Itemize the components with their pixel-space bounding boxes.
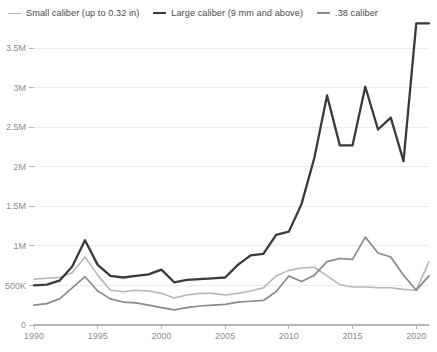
x-axis-tick-label: 2000 [151, 331, 171, 341]
plot-area: 0500K1M1.5M2M2.5M3M3.5M 1990199520002005… [0, 0, 437, 352]
y-axis-tick-label: 1M [13, 241, 26, 251]
x-axis-tick-labels: 1990199520002005201020152020 [24, 325, 426, 341]
chart-container: Small caliber (up to 0.32 in) Large cali… [0, 0, 437, 352]
x-axis-tick-label: 1995 [88, 331, 108, 341]
y-axis-tick-label: 0 [21, 320, 26, 330]
x-axis-tick-label: 1990 [24, 331, 44, 341]
series-line-small-caliber-up-to-0-32-in[interactable] [34, 257, 429, 298]
series-line-38-caliber[interactable] [34, 237, 429, 310]
line-chart-svg: 0500K1M1.5M2M2.5M3M3.5M 1990199520002005… [0, 0, 437, 352]
gridlines [34, 48, 429, 285]
y-axis-tick-label: 1.5M [6, 201, 26, 211]
x-axis-tick-label: 2015 [343, 331, 363, 341]
x-axis-tick-label: 2020 [406, 331, 426, 341]
y-axis-tick-label: 2M [13, 162, 26, 172]
y-axis-tick-label: 2.5M [6, 122, 26, 132]
x-axis-tick-label: 2005 [215, 331, 235, 341]
x-axis-tick-label: 2010 [279, 331, 299, 341]
y-axis-tick-label: 3.5M [6, 43, 26, 53]
y-axis-tick-labels: 0500K1M1.5M2M2.5M3M3.5M [5, 43, 34, 330]
y-axis-tick-label: 500K [5, 281, 26, 291]
y-axis-tick-label: 3M [13, 83, 26, 93]
